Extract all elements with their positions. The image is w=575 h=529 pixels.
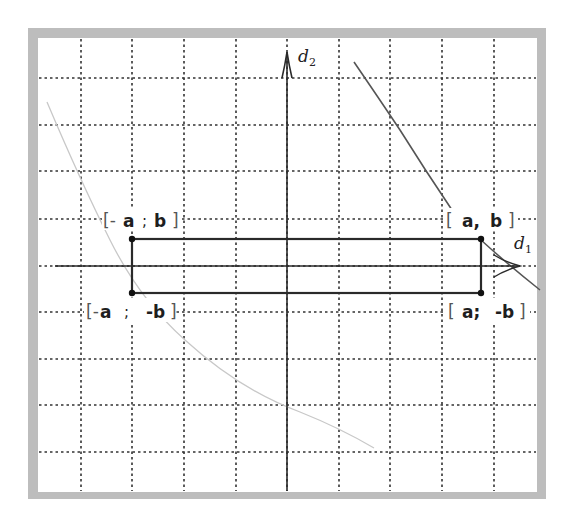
svg-text:b: b xyxy=(490,211,502,231)
axis-d2 xyxy=(282,52,292,491)
svg-text:;: ; xyxy=(124,303,129,321)
svg-text:[-: [- xyxy=(103,210,116,230)
hyperbola-branch-light xyxy=(47,102,374,448)
svg-text:]: ] xyxy=(508,210,515,230)
coordinate-diagram: d2 d1 [- a ; b ] [ a, b ] [- a ; -b ] [ … xyxy=(0,0,575,529)
corner-point-bottom-right xyxy=(478,290,484,296)
svg-text:a: a xyxy=(123,211,134,231)
svg-text:]: ] xyxy=(170,301,177,321)
svg-text:[-: [- xyxy=(86,301,99,321)
svg-text:a;: a; xyxy=(462,302,480,322)
corner-point-bottom-left xyxy=(129,290,135,296)
hyperbola-branch-dark xyxy=(354,62,452,210)
svg-text:]: ] xyxy=(172,210,179,230)
svg-text:[: [ xyxy=(448,301,455,321)
corner-point-top-left xyxy=(129,236,135,242)
svg-text:;: ; xyxy=(142,212,147,230)
svg-text:b: b xyxy=(154,211,166,231)
svg-text:a,: a, xyxy=(462,211,480,231)
svg-text:a: a xyxy=(100,302,111,322)
svg-text:]: ] xyxy=(519,301,526,321)
svg-text:-b: -b xyxy=(495,302,514,322)
corner-point-top-right xyxy=(478,236,484,242)
svg-text:[: [ xyxy=(446,210,453,230)
svg-text:-b: -b xyxy=(146,302,165,322)
